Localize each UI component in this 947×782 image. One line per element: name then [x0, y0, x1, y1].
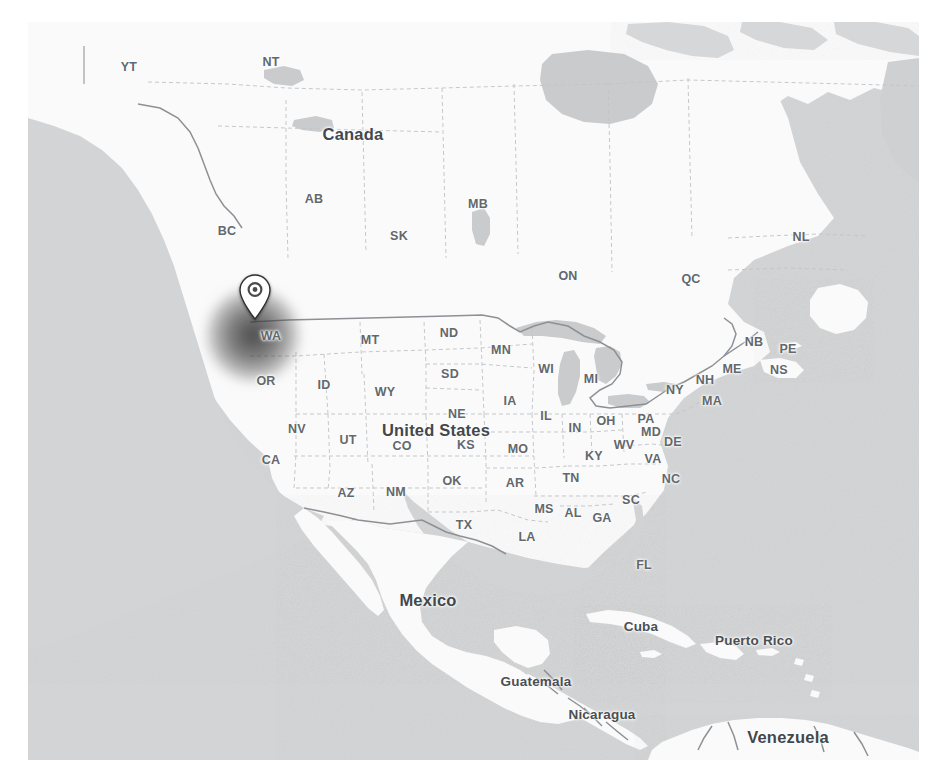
location-pin-marker[interactable]	[238, 274, 272, 320]
map-viewport[interactable]: CanadaUnited StatesMexicoVenezuelaCubaPu…	[28, 22, 919, 760]
map-screenshot: CanadaUnited StatesMexicoVenezuelaCubaPu…	[0, 0, 947, 782]
map-canvas	[28, 22, 919, 760]
map-pin-icon	[238, 274, 272, 320]
